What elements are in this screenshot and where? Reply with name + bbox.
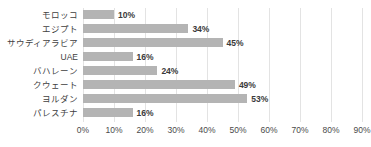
bar-value-label: 53% (251, 95, 268, 104)
bar-value-label: 45% (227, 39, 244, 48)
bar (83, 108, 133, 117)
bar (83, 38, 223, 47)
x-axis-tick-label: 30% (167, 126, 184, 135)
x-axis-tick-label: 90% (353, 126, 370, 135)
plot-area: モロッコ10%エジプト34%サウディアラビア45%UAE16%バハレーン24%ク… (83, 8, 362, 122)
bar-value-label: 49% (239, 81, 256, 90)
x-axis-tick-label: 20% (136, 126, 153, 135)
category-label: ヨルダン (42, 95, 78, 104)
bar-row: バハレーン24% (83, 64, 362, 78)
category-label: UAE (61, 53, 78, 62)
category-label: パレスチナ (33, 109, 78, 118)
category-label: サウディアラビア (7, 39, 78, 48)
bar (83, 66, 157, 75)
bar-value-label: 16% (137, 109, 154, 118)
category-label: モロッコ (42, 11, 78, 20)
bar (83, 94, 247, 103)
bar (83, 52, 133, 61)
x-axis-tick-label: 60% (260, 126, 277, 135)
category-label: クウェート (33, 81, 78, 90)
bar (83, 10, 114, 19)
bar (83, 24, 188, 33)
bar-value-label: 16% (137, 53, 154, 62)
bar-row: ヨルダン53% (83, 92, 362, 106)
bar-value-label: 10% (118, 11, 135, 20)
x-axis: 0%10%20%30%40%50%60%70%80%90% (83, 124, 362, 140)
bar-row: サウディアラビア45% (83, 36, 362, 50)
bar-row: パレスチナ16% (83, 106, 362, 120)
category-label: エジプト (42, 25, 78, 34)
bar-value-label: 24% (161, 67, 178, 76)
x-axis-tick-label: 70% (291, 126, 308, 135)
x-axis-tick-label: 80% (322, 126, 339, 135)
bar-row: クウェート49% (83, 78, 362, 92)
x-axis-tick-label: 40% (198, 126, 215, 135)
category-label: バハレーン (33, 67, 78, 76)
x-axis-tick-label: 10% (105, 126, 122, 135)
bar-row: モロッコ10% (83, 8, 362, 22)
x-axis-tick-label: 0% (77, 126, 89, 135)
bar (83, 80, 235, 89)
gridline (362, 8, 363, 122)
bar-row: UAE16% (83, 50, 362, 64)
bar-rows: モロッコ10%エジプト34%サウディアラビア45%UAE16%バハレーン24%ク… (83, 8, 362, 122)
bar-row: エジプト34% (83, 22, 362, 36)
x-axis-tick-label: 50% (229, 126, 246, 135)
bar-value-label: 34% (192, 25, 209, 34)
